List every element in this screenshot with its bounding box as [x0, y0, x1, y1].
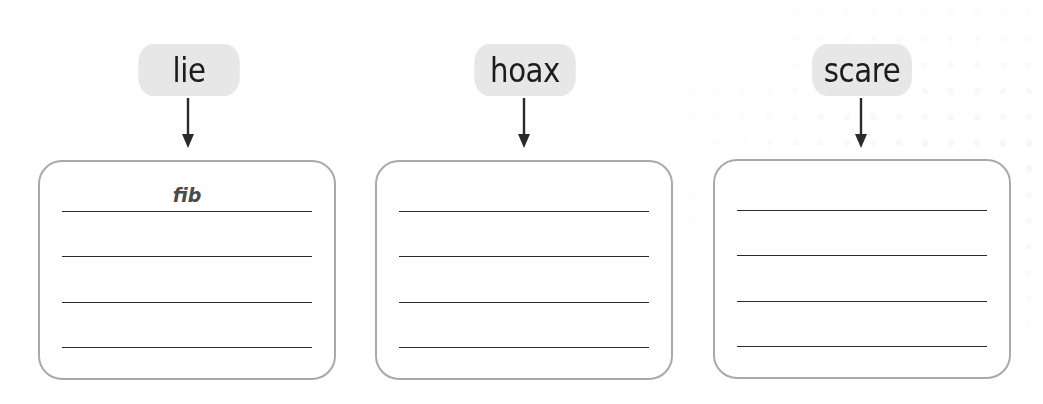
answer-line-4[interactable]	[737, 346, 987, 347]
word-label: hoax	[490, 50, 560, 90]
answer-line-2[interactable]	[62, 256, 312, 257]
answer-line-2[interactable]	[737, 255, 987, 256]
answer-line-3[interactable]	[62, 302, 312, 303]
answer-line-2[interactable]	[399, 256, 649, 257]
answer-line-3[interactable]	[399, 302, 649, 303]
word-pill-hoax: hoax	[474, 44, 575, 96]
arrow-down-icon	[516, 98, 532, 150]
answer-box-scare	[713, 159, 1011, 379]
answer-line-1[interactable]	[62, 211, 312, 212]
answer-line-1[interactable]	[399, 211, 649, 212]
word-label: scare	[824, 50, 900, 90]
word-label: lie	[173, 50, 206, 90]
word-pill-scare: scare	[812, 44, 912, 96]
answer-line-1[interactable]	[737, 210, 987, 211]
answer-line-3[interactable]	[737, 301, 987, 302]
arrow-down-icon	[853, 98, 869, 150]
answer-text: fib	[40, 184, 334, 206]
answer-box-hoax	[375, 160, 673, 380]
word-pill-lie: lie	[138, 44, 239, 96]
answer-box-lie: fib	[38, 160, 336, 380]
answer-line-4[interactable]	[399, 347, 649, 348]
answer-line-4[interactable]	[62, 347, 312, 348]
arrow-down-icon	[180, 98, 196, 150]
